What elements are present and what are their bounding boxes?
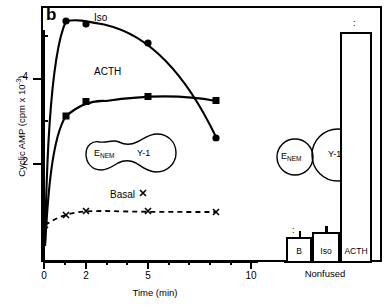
iso-point-5min <box>144 39 151 46</box>
bar-basal-error-line <box>299 231 301 238</box>
acth-point-5min <box>145 93 152 100</box>
acth-series-label: ACTH <box>94 66 121 77</box>
iso-point-2min <box>82 20 89 27</box>
bars-panel-title: Nonfused <box>270 268 380 279</box>
iso-point-10min <box>212 134 219 141</box>
bar-acth-errorbar: : <box>353 22 356 26</box>
acth-curve <box>45 96 216 246</box>
basal-curve <box>45 211 216 225</box>
basal-series-label: Basal <box>110 189 135 200</box>
nonfused-enem-sub: NEM <box>287 155 301 162</box>
bar-basal-label: B <box>286 246 312 256</box>
acth-point-1min <box>63 113 70 120</box>
acth-point-10min <box>213 97 220 104</box>
iso-point-1min <box>62 17 69 24</box>
fused-cell-enem-label: ENEM <box>94 148 114 159</box>
bar-basal-errorbar: : <box>292 229 295 233</box>
bar-acth-label: ACTH <box>339 246 373 256</box>
bar-iso-label: Iso <box>312 246 340 256</box>
bar-iso-errorbar <box>325 226 328 233</box>
basal-point-outlier <box>140 190 146 196</box>
fused-enem-sub: NEM <box>100 152 114 159</box>
figure-panel-b: b Cyclic AMP (cpm x 10-3) 4 2 0 2 5 10 T… <box>0 0 390 307</box>
nonfused-cell-enem-label: ENEM <box>281 151 301 162</box>
bar-acth <box>340 32 372 261</box>
fused-cell-y1-label: Y-1 <box>137 148 150 158</box>
iso-series-label: Iso <box>94 12 107 23</box>
acth-point-2min <box>83 98 90 105</box>
